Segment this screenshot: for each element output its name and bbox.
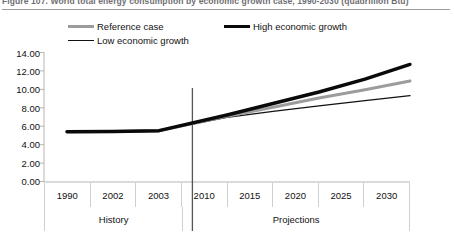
period-row: History Projections [44,207,410,231]
x-axis-year-row: 1990 2002 2003 2010 2015 2020 2025 2030 [44,183,410,207]
x-axis-year-cell: 2003 [135,183,181,207]
x-axis-year-cell: 1990 [44,183,90,207]
series-line-reference-case [67,81,410,132]
x-axis-year-cell: 2002 [90,183,136,207]
period-label-projections: Projections [182,207,410,231]
x-axis-year-cell: 2010 [181,183,227,207]
x-axis-year-cell: 2025 [318,183,364,207]
period-label-history: History [44,207,182,231]
y-axis-ticks [40,53,44,182]
x-axis-year-cell: 2030 [363,183,410,207]
x-axis-year-cell: 2020 [272,183,318,207]
series-line-high-economic-growth [67,64,410,131]
x-axis-year-cell: 2015 [227,183,273,207]
